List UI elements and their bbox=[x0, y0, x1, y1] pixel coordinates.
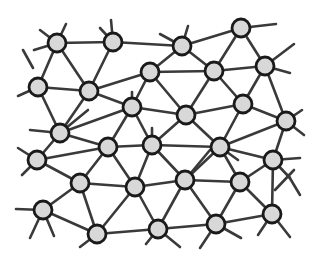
graph-node bbox=[143, 136, 161, 154]
edge-stub bbox=[288, 175, 300, 195]
graph-node bbox=[205, 62, 223, 80]
graph-node bbox=[173, 37, 191, 55]
edge-stub bbox=[23, 50, 33, 68]
graph-node bbox=[99, 138, 117, 156]
graph-node bbox=[123, 98, 141, 116]
edge bbox=[60, 107, 132, 133]
graph-node bbox=[263, 205, 281, 223]
graph-node bbox=[232, 19, 250, 37]
graph-node bbox=[29, 78, 47, 96]
edges bbox=[37, 28, 286, 234]
graph-node bbox=[176, 171, 194, 189]
graph-node bbox=[149, 220, 167, 238]
graph-node bbox=[141, 63, 159, 81]
graph-node bbox=[234, 95, 252, 113]
nodes bbox=[28, 19, 295, 243]
graph-node bbox=[264, 151, 282, 169]
graph-node bbox=[28, 151, 46, 169]
graph-node bbox=[231, 173, 249, 191]
graph-node bbox=[211, 138, 229, 156]
edge bbox=[220, 121, 286, 147]
graph-node bbox=[126, 178, 144, 196]
graph-node bbox=[88, 225, 106, 243]
graph-node bbox=[48, 34, 66, 52]
graph-node bbox=[256, 57, 274, 75]
graph-node bbox=[207, 215, 225, 233]
network-diagram bbox=[0, 0, 319, 263]
graph-node bbox=[277, 112, 295, 130]
graph-node bbox=[51, 124, 69, 142]
graph-node bbox=[177, 106, 195, 124]
graph-node bbox=[104, 33, 122, 51]
graph-node bbox=[34, 201, 52, 219]
graph-node bbox=[80, 82, 98, 100]
graph-node bbox=[71, 174, 89, 192]
